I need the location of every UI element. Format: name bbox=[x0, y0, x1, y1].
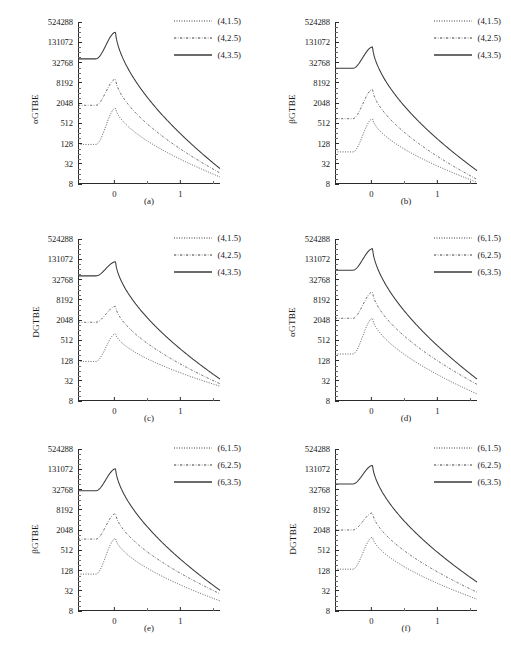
legend-label: (6,3.5) bbox=[218, 477, 241, 487]
y-axis-label: DGTBE bbox=[288, 523, 298, 555]
y-axis-label: βGTBE bbox=[287, 94, 297, 124]
legend-item: (4,2.5) bbox=[174, 250, 241, 260]
legend-line-swatch bbox=[174, 445, 212, 451]
legend-item: (4,1.5) bbox=[434, 16, 501, 26]
legend-label: (6,1.5) bbox=[478, 443, 501, 453]
y-axis-tick-label: 8 bbox=[326, 606, 335, 616]
y-axis-tick-label: 8 bbox=[69, 179, 78, 189]
y-axis-tick-label: 8192 bbox=[313, 505, 335, 515]
y-axis-tick-label: 2048 bbox=[56, 315, 78, 325]
y-axis-tick-label: 2048 bbox=[313, 525, 335, 535]
y-axis-tick-label: 8192 bbox=[56, 78, 78, 88]
legend-item: (6,3.5) bbox=[434, 267, 501, 277]
y-axis-tick-label: 524288 bbox=[305, 234, 335, 244]
y-axis-tick-label: 131072 bbox=[305, 37, 335, 47]
legend-item: (4,3.5) bbox=[434, 50, 501, 60]
y-axis-tick-label: 32768 bbox=[309, 58, 335, 68]
legend-line-swatch bbox=[434, 252, 472, 258]
y-axis-tick-label: 524288 bbox=[48, 17, 78, 27]
y-axis-tick-label: 524288 bbox=[305, 444, 335, 454]
y-axis-tick-label: 8 bbox=[69, 396, 78, 406]
y-axis-tick-label: 128 bbox=[60, 139, 78, 149]
legend-item: (6,1.5) bbox=[174, 443, 241, 453]
legend-item: (6,2.5) bbox=[434, 460, 501, 470]
y-axis-tick-label: 32 bbox=[65, 586, 78, 596]
y-axis-tick-label: 8 bbox=[326, 179, 335, 189]
y-axis-tick-label: 512 bbox=[317, 545, 335, 555]
subplot-caption: (a) bbox=[78, 196, 220, 206]
legend-label: (6,2.5) bbox=[218, 460, 241, 470]
y-axis-tick-label: 512 bbox=[317, 335, 335, 345]
legend-line-swatch bbox=[174, 18, 212, 24]
y-axis-tick-label: 512 bbox=[60, 335, 78, 345]
y-axis-tick-label: 32 bbox=[65, 159, 78, 169]
y-axis-tick-label: 32 bbox=[322, 586, 335, 596]
y-axis-tick-label: 128 bbox=[317, 356, 335, 366]
legend-label: (4,2.5) bbox=[218, 250, 241, 260]
legend-line-swatch bbox=[174, 479, 212, 485]
curve-625 bbox=[335, 513, 477, 592]
subplot-d: αGTBE83212851220488192327681310725242880… bbox=[255, 217, 511, 427]
curve-625 bbox=[335, 292, 477, 384]
subplot-f: DGTBE83212851220488192327681310725242880… bbox=[255, 427, 511, 651]
curve-615 bbox=[335, 318, 477, 394]
y-axis-tick-label: 8 bbox=[69, 606, 78, 616]
curve-415 bbox=[78, 108, 220, 177]
y-axis-tick-label: 8192 bbox=[313, 78, 335, 88]
legend-line-swatch bbox=[174, 235, 212, 241]
legend: (6,1.5)(6,2.5)(6,3.5) bbox=[434, 233, 501, 277]
curve-435 bbox=[335, 47, 477, 171]
legend-item: (4,1.5) bbox=[174, 233, 241, 243]
subplot-caption: (d) bbox=[335, 413, 477, 423]
curve-425 bbox=[78, 306, 220, 383]
legend-label: (4,1.5) bbox=[478, 16, 501, 26]
legend-line-swatch bbox=[174, 462, 212, 468]
curve-425 bbox=[78, 79, 220, 173]
y-axis-tick-label: 32768 bbox=[309, 275, 335, 285]
curve-635 bbox=[78, 469, 220, 590]
y-axis-tick-label: 524288 bbox=[48, 234, 78, 244]
legend-item: (6,1.5) bbox=[434, 443, 501, 453]
legend-line-swatch bbox=[434, 235, 472, 241]
legend-label: (4,2.5) bbox=[478, 33, 501, 43]
legend-line-swatch bbox=[174, 269, 212, 275]
legend: (6,1.5)(6,2.5)(6,3.5) bbox=[434, 443, 501, 487]
y-axis-tick-label: 131072 bbox=[48, 254, 78, 264]
subplot-c: DGTBE83212851220488192327681310725242880… bbox=[0, 217, 255, 427]
y-axis-tick-label: 128 bbox=[317, 566, 335, 576]
legend-line-swatch bbox=[434, 479, 472, 485]
legend-line-swatch bbox=[434, 18, 472, 24]
legend-label: (4,3.5) bbox=[218, 50, 241, 60]
legend-line-swatch bbox=[174, 52, 212, 58]
y-axis-tick-label: 512 bbox=[60, 545, 78, 555]
subplot-e: βGTBE83212851220488192327681310725242880… bbox=[0, 427, 255, 651]
legend-line-swatch bbox=[434, 35, 472, 41]
y-axis-tick-label: 512 bbox=[317, 118, 335, 128]
legend-item: (6,3.5) bbox=[174, 477, 241, 487]
y-axis-label: αGTBE bbox=[30, 94, 40, 124]
legend-label: (6,3.5) bbox=[478, 267, 501, 277]
legend: (4,1.5)(4,2.5)(4,3.5) bbox=[434, 16, 501, 60]
y-axis-tick-label: 32768 bbox=[52, 58, 78, 68]
y-axis-tick-label: 8 bbox=[326, 396, 335, 406]
figure-panels: αGTBE83212851220488192327681310725242880… bbox=[0, 0, 511, 651]
y-axis-tick-label: 512 bbox=[60, 118, 78, 128]
legend-label: (6,3.5) bbox=[478, 477, 501, 487]
y-axis-label: βGTBE bbox=[30, 524, 40, 554]
legend-item: (6,2.5) bbox=[434, 250, 501, 260]
curve-615 bbox=[335, 537, 477, 599]
subplot-caption: (c) bbox=[78, 413, 220, 423]
y-axis-tick-label: 131072 bbox=[305, 254, 335, 264]
y-axis-tick-label: 32768 bbox=[52, 275, 78, 285]
legend-item: (6,2.5) bbox=[174, 460, 241, 470]
subplot-a: αGTBE83212851220488192327681310725242880… bbox=[0, 0, 255, 217]
y-axis-tick-label: 128 bbox=[60, 566, 78, 576]
y-axis-label: DGTBE bbox=[31, 306, 41, 338]
legend-label: (4,1.5) bbox=[218, 233, 241, 243]
curve-615 bbox=[78, 538, 220, 600]
y-axis-tick-label: 32 bbox=[65, 376, 78, 386]
curve-625 bbox=[78, 514, 220, 594]
legend-item: (4,3.5) bbox=[174, 267, 241, 277]
legend-label: (4,2.5) bbox=[218, 33, 241, 43]
y-axis-tick-label: 8192 bbox=[313, 295, 335, 305]
